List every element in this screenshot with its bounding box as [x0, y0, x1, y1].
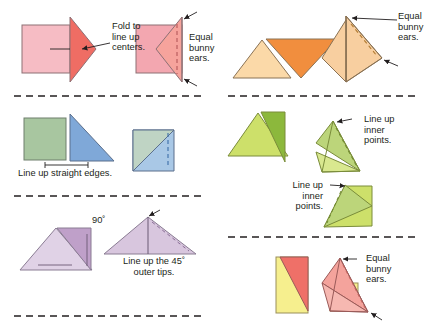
blue-triangle	[70, 114, 114, 161]
pink-arrow-bottom	[371, 313, 382, 320]
orange-arrow-bottom	[384, 60, 398, 66]
green-arrow-2	[330, 185, 345, 186]
label-line-up-straight-edges: Line up straight edges.	[18, 168, 138, 179]
purple-arrow	[149, 210, 160, 216]
ear-arrow-bottom	[184, 79, 197, 86]
figure-pink-square-triangle	[22, 17, 110, 82]
figure-greenyellow-folded-2	[324, 185, 372, 227]
label-line-up-45-outer-tips: Line up the 45˚ outer tips.	[108, 256, 200, 277]
figure-green-blue-folded	[133, 130, 174, 171]
orange-ear-right	[346, 16, 382, 82]
figure-purple-pair	[20, 228, 92, 270]
ear-arrow-top	[184, 12, 197, 19]
label-equal-bunny-ears-3: Equal bunny ears.	[366, 253, 406, 285]
purple-folded-triangle	[104, 217, 196, 254]
label-angle-90: 90˚	[92, 215, 114, 226]
diagram-canvas: Fold to line up centers. Equal bunny ear…	[0, 0, 432, 324]
green-square	[24, 118, 66, 160]
green-arrow-1	[337, 119, 352, 122]
figure-greenyellow-pair	[228, 112, 288, 162]
label-equal-bunny-ears-2: Equal bunny ears.	[398, 11, 432, 43]
label-line-up-inner-points-1: Line up inner points.	[364, 114, 424, 146]
figure-pinkyellow-pair	[276, 257, 308, 313]
figure-greenyellow-folded-1	[316, 119, 360, 172]
figure-purple-folded	[104, 210, 196, 254]
label-fold-centers: Fold to line up centers.	[112, 21, 168, 53]
label-equal-bunny-ears-1: Equal bunny ears.	[189, 32, 223, 64]
figure-green-blue-pair	[24, 114, 114, 165]
label-line-up-inner-points-2: Line up inner points.	[255, 180, 323, 212]
salmon-triangle	[70, 17, 96, 82]
orange-arrow-top	[352, 18, 397, 20]
figure-orange-pair	[233, 39, 337, 78]
figure-orange-folded	[322, 16, 398, 82]
